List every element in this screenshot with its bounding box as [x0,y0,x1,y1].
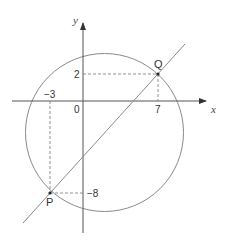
point-q-label: Q [154,58,163,70]
tick-label-y-2: 2 [74,69,80,80]
point-p-label: P [46,196,53,208]
tick-label-x-7: 7 [155,104,161,115]
tick-label-x-neg3: −3 [44,89,56,100]
x-axis-label: x [210,103,216,115]
tick-label-y-neg8: −8 [87,188,99,199]
y-axis-label: y [72,14,78,26]
coordinate-diagram: Q P y x 0 7 −3 2 −8 [0,0,233,242]
point-p-marker [48,191,51,194]
origin-label: 0 [74,104,80,115]
point-q-marker [156,72,159,75]
